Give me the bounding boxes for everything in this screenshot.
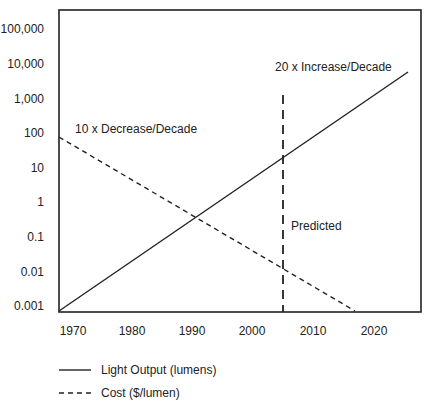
x-tick: 2000: [239, 324, 266, 338]
plot-frame: [59, 10, 421, 312]
y-tick: 1: [37, 195, 44, 209]
y-tick: 10: [31, 161, 44, 175]
x-tick: 2020: [361, 324, 388, 338]
y-tick: 100: [24, 126, 44, 140]
y-tick: 10,000: [7, 57, 44, 71]
legend-light-output: Light Output (lumens): [59, 363, 216, 377]
y-tick: 1,000: [14, 92, 44, 106]
increase-annotation: 20 x Increase/Decade: [275, 60, 392, 74]
y-tick: 100,000: [1, 22, 44, 36]
y-tick: 0.001: [14, 299, 44, 313]
light-output-line: [59, 72, 408, 311]
x-tick: 2010: [300, 324, 327, 338]
legend-label: Light Output (lumens): [101, 363, 216, 377]
solid-line-icon: [59, 368, 91, 372]
legend-cost: Cost ($/lumen): [59, 386, 180, 400]
y-tick: 0.1: [27, 230, 44, 244]
x-tick: 1970: [60, 324, 87, 338]
x-tick: 1980: [119, 324, 146, 338]
x-tick: 1990: [179, 324, 206, 338]
dashed-line-icon: [59, 391, 91, 395]
y-tick: 0.01: [21, 265, 44, 279]
decrease-annotation: 10 x Decrease/Decade: [75, 122, 197, 136]
legend-label: Cost ($/lumen): [101, 386, 180, 400]
predicted-annotation: Predicted: [291, 219, 342, 233]
